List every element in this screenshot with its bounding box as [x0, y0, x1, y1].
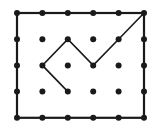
grid-dot	[65, 36, 71, 42]
grid-dot	[65, 115, 71, 121]
grid-dot	[39, 115, 45, 121]
grid-dot	[116, 10, 122, 16]
grid-dot	[39, 36, 45, 42]
grid-border	[17, 13, 144, 118]
grid-dot	[14, 89, 20, 95]
grid-dot	[39, 89, 45, 95]
grid-dot	[90, 62, 96, 68]
grid-dot	[141, 62, 147, 68]
grid-dot	[14, 115, 20, 121]
grid-dot	[116, 62, 122, 68]
grid-dot	[65, 62, 71, 68]
dot-grid-diagram	[0, 0, 153, 127]
grid-dot	[39, 62, 45, 68]
grid-dot	[14, 10, 20, 16]
grid-dot	[90, 10, 96, 16]
grid-dot	[90, 36, 96, 42]
grid-dot	[14, 36, 20, 42]
grid-dot	[141, 10, 147, 16]
grid-dot	[14, 62, 20, 68]
grid-dot	[116, 115, 122, 121]
grid-dot	[116, 36, 122, 42]
grid-dot	[39, 10, 45, 16]
grid-dot	[65, 10, 71, 16]
grid-dot	[116, 89, 122, 95]
grid-dot	[65, 89, 71, 95]
grid-dot	[90, 115, 96, 121]
grid-dot	[141, 36, 147, 42]
grid-dot	[90, 89, 96, 95]
grid-dots	[14, 10, 147, 121]
zigzag-path	[42, 13, 144, 92]
grid-dot	[141, 89, 147, 95]
grid-dot	[141, 115, 147, 121]
